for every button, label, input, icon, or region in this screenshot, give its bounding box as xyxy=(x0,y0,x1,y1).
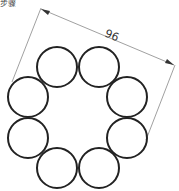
circle-ring xyxy=(8,47,147,188)
right-extension-line xyxy=(146,65,175,140)
arrow-start-icon xyxy=(41,9,50,15)
circle-4 xyxy=(107,118,147,158)
arrow-end-icon xyxy=(165,59,174,65)
circle-1 xyxy=(37,47,77,87)
drawing-canvas: 96 xyxy=(0,0,179,191)
circle-2 xyxy=(79,47,119,87)
circle-6 xyxy=(37,148,77,188)
circle-7 xyxy=(8,118,48,158)
circle-3 xyxy=(107,77,147,117)
circle-8 xyxy=(8,77,48,117)
circle-5 xyxy=(79,148,119,188)
